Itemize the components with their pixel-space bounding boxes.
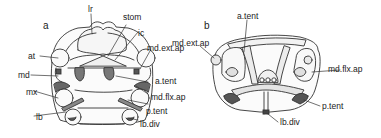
- panel-b-drawing: [211, 35, 320, 114]
- label-a-stom: stom: [123, 13, 141, 22]
- label-a-p-tent: p.tent: [146, 107, 167, 116]
- label-a-ic: ic: [138, 29, 144, 38]
- label-b-p-tent: p.tent: [322, 102, 343, 111]
- label-a-md: md: [18, 71, 30, 80]
- panel-label-a: a: [43, 21, 49, 31]
- panel-label-b: b: [204, 21, 210, 31]
- label-b-lb-div: lb.div: [280, 118, 300, 127]
- label-b-a-tent: a.tent: [237, 12, 258, 21]
- label-b-md-ext-ap: md.ext.ap: [172, 39, 209, 48]
- label-a-a-tent: a.tent: [155, 77, 176, 86]
- anatomical-figure: a b lr stom ic at md.ext.ap md a.tent mx…: [0, 0, 381, 138]
- label-a-lr: lr: [88, 5, 93, 14]
- label-a-at: at: [28, 52, 35, 61]
- label-a-lb: lb: [36, 113, 43, 122]
- figure-drawing: [0, 0, 381, 138]
- label-a-lb-div: lb.div: [140, 120, 160, 129]
- label-a-md-flx-ap: md.flx.ap: [151, 93, 186, 102]
- label-a-mx: mx: [26, 88, 37, 97]
- label-b-md-flx-ap: md.flx.ap: [328, 65, 363, 74]
